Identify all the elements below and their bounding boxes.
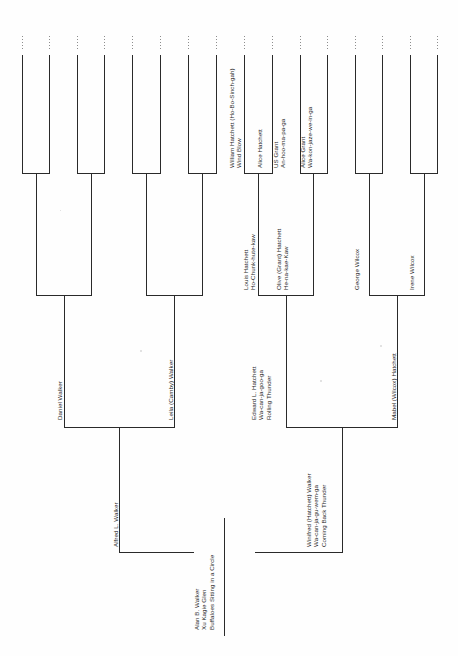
person-name-line: Alice Grant [299,107,306,168]
person-name-line: Wa-kon-jaze-we-in-ga [306,107,313,168]
person-maternal-great-grandfather-2: George Wilcox [353,249,360,290]
person-name-line: William Hatchett (Ho-Bo-Sinch-gah) [228,68,235,168]
gen2-bracket-cap [255,552,343,553]
person-name-line: Alice Hatchett [256,129,263,168]
continuation-tick [382,36,383,50]
person-name-line: Rolling Thunder [265,366,272,420]
person-gg-grandfather-grant: US Grant An-hoo-ma-pa-ga [272,119,287,168]
continuation-tick [216,36,217,50]
person-maternal-grandmother: Mabel (Wilcox) Hatchett [390,353,397,420]
gen5-rule [160,55,161,173]
scan-speck [380,345,382,347]
person-maternal-grandfather: Edward L. Hatchett Wa-can-ja-goo-ga Roll… [250,366,272,420]
gen4-rule [91,173,92,295]
gen5-rule [327,55,328,173]
person-name-line: Ho-Chunk-hute-kaw [249,234,256,290]
gen5-rule [77,55,78,173]
person-name-line: Irene Wilcox [408,255,415,290]
person-name-line: Coming Back Thunder [320,473,327,547]
person-gg-grandmother-grant: Alice Grant Wa-kon-jaze-we-in-ga [299,107,314,168]
person-name-line: Wa-can-ja-goo-ga [257,366,264,420]
person-father: Alfred L. Walker [112,502,119,547]
gen5-bracket-cap [300,173,328,174]
person-name-line: Mabel (Wilcox) Hatchett [390,353,397,420]
person-name-line: Louis Hatchett [242,234,249,290]
gen4-rule [313,173,314,295]
gen5-rule [104,55,105,173]
gen5-rule [22,55,23,173]
gen5-rule [216,55,217,173]
scan-speck [60,210,61,211]
person-name-line: Alfred L. Walker [112,502,119,547]
continuation-tick [327,36,328,50]
person-subject: Alan B. Walker Xu Kagie Glen Buffaloes S… [193,555,215,630]
scan-speck [320,380,322,382]
continuation-tick [104,36,105,50]
person-paternal-grandmother: Leila (Camby) Walker [167,360,174,420]
person-gg-grandmother-hatchett: Alice Hatchett [256,129,263,168]
continuation-tick [272,36,273,50]
person-name-line: Daniel Walker [56,381,63,420]
person-name-line: Xu Kagie Glen [200,555,207,630]
gen3-rule [64,295,65,427]
person-name-line: He-na-kae-Kaw [282,229,289,290]
person-name-line: Wa-can-ja-gu-wem-ga [312,473,319,547]
person-name-line: US Grant [272,119,279,168]
continuation-tick [188,36,189,50]
person-name-line: Winifred (Hatchett) Walker [305,473,312,547]
person-name-line: George Wilcox [353,249,360,290]
person-mother: Winifred (Hatchett) Walker Wa-can-ja-gu-… [305,473,327,547]
gen2-rule [342,427,343,552]
person-name-line: Alan B. Walker [193,555,200,630]
continuation-tick [300,36,301,50]
person-name-line: Wind Blow [235,68,242,168]
gen2-bracket-cap [119,552,194,553]
pedigree-chart: William Hatchett (Ho-Bo-Sinch-gah) Wind … [0,0,458,656]
person-maternal-great-grandmother-2: Irene Wilcox [408,255,415,290]
continuation-tick [49,36,50,50]
continuation-tick [77,36,78,50]
continuation-tick [22,36,23,50]
gen5-rule [244,55,245,173]
gen5-rule [437,55,438,173]
continuation-tick [244,36,245,50]
continuation-tick [160,36,161,50]
continuation-tick [132,36,133,50]
gen4-rule [424,173,425,295]
continuation-tick [437,36,438,50]
continuation-tick [355,36,356,50]
gen3-rule [286,295,287,427]
person-maternal-great-grandmother-1: Olive (Grant) Hatchett He-na-kae-Kaw [275,229,290,290]
gen4-rule [146,173,147,295]
gen5-rule [410,55,411,173]
person-name-line: Olive (Grant) Hatchett [275,229,282,290]
gen4-rule [36,173,37,295]
gen5-rule [188,55,189,173]
person-name-line: An-hoo-ma-pa-ga [279,119,286,168]
gen5-rule [132,55,133,173]
continuation-tick [410,36,411,50]
gen4-rule [202,173,203,295]
gen4-rule [258,173,259,295]
gen5-rule [382,55,383,173]
scan-speck [140,350,142,352]
person-name-line: Edward L. Hatchett [250,366,257,420]
subject-rule [224,518,225,636]
person-gg-grandfather-hatchett: William Hatchett (Ho-Bo-Sinch-gah) Wind … [228,68,243,168]
gen5-rule [49,55,50,173]
person-name-line: Buffaloes Sitting in a Circle [208,555,215,630]
person-paternal-grandfather: Daniel Walker [56,381,63,420]
gen4-rule [369,173,370,295]
person-maternal-great-grandfather-1: Louis Hatchett Ho-Chunk-hute-kaw [242,234,257,290]
gen5-rule [355,55,356,173]
person-name-line: Leila (Camby) Walker [167,360,174,420]
